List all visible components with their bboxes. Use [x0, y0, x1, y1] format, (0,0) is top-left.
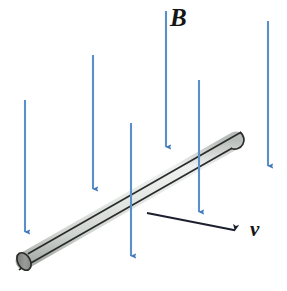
- conducting-rod: [14, 133, 244, 273]
- rod-edge-top: [29, 133, 241, 254]
- magnetic-field-label: B: [170, 5, 187, 30]
- velocity-label: v: [250, 219, 259, 240]
- diagram-canvas: [0, 0, 287, 291]
- physics-diagram: B v: [0, 0, 287, 291]
- velocity-arrow: [147, 213, 235, 230]
